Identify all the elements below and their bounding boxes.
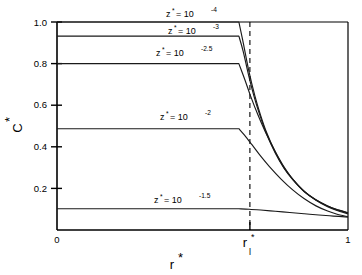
curve-series-1 <box>57 36 348 212</box>
y-axis-title: C * <box>2 117 25 133</box>
label-z-star-1: * <box>174 24 177 31</box>
x-axis-title-base: r <box>170 257 175 272</box>
y-tick-label-0-8: 0.8 <box>34 58 47 69</box>
label-z-base-0: z <box>166 9 171 19</box>
concentration-profile-chart: 0.2 0.4 0.6 0.8 1.0 0 1 r * l C * r <box>0 0 362 275</box>
label-z-equals-1: = 10 <box>178 26 196 36</box>
y-tick-label-0-6: 0.6 <box>34 99 47 110</box>
y-axis-title-sup: * <box>2 117 17 122</box>
figure-container: 0.2 0.4 0.6 0.8 1.0 0 1 r * l C * r <box>0 0 362 275</box>
label-z-base-3: z <box>160 112 165 122</box>
label-z-exponent-0: -4 <box>211 6 217 13</box>
y-axis-title-base: C <box>10 123 25 132</box>
label-z-star-4: * <box>160 193 163 200</box>
x-axis-title-sup: * <box>178 250 183 265</box>
y-tick-label-1-0: 1.0 <box>34 17 47 28</box>
x-tick-label-1: 1 <box>345 234 350 245</box>
x-axis-tick-labels: 0 1 r * l <box>54 232 350 257</box>
x-tick-label-0: 0 <box>54 234 59 245</box>
label-z-equals-4: = 10 <box>164 195 182 205</box>
x-tick-label-rl: r * l <box>243 232 255 257</box>
label-z-base-2: z <box>156 48 161 58</box>
label-z-equals-0: = 10 <box>176 9 194 19</box>
x-tick-label-rl-base: r <box>243 235 248 250</box>
y-tick-label-0-2: 0.2 <box>34 183 47 194</box>
y-axis-tick-labels: 0.2 0.4 0.6 0.8 1.0 <box>34 17 47 194</box>
label-z-equals-2: = 10 <box>166 48 184 58</box>
curve-series-4 <box>57 209 348 217</box>
label-z-star-2: * <box>162 46 165 53</box>
series-annotation-z-1e-4: z * = 10 -4 <box>166 6 217 19</box>
x-tick-label-rl-sup: * <box>251 232 255 242</box>
series-annotation-z-1e-3: z * = 10 -3 <box>168 23 219 36</box>
curve-series-3 <box>57 129 348 217</box>
x-axis-title: r * <box>170 250 183 272</box>
label-z-base-1: z <box>168 26 173 36</box>
label-z-exponent-2: -2.5 <box>201 45 213 52</box>
label-z-exponent-3: -2 <box>205 109 211 116</box>
series-annotation-z-1e-2-5: z * = 10 -2.5 <box>156 45 213 58</box>
label-z-exponent-1: -3 <box>213 23 219 30</box>
y-tick-label-0-4: 0.4 <box>34 141 47 152</box>
series-annotation-z-1e-1-5: z * = 10 -1.5 <box>154 192 211 205</box>
series-annotation-z-1e-2: z * = 10 -2 <box>160 109 211 122</box>
label-z-exponent-4: -1.5 <box>199 192 211 199</box>
label-z-star-0: * <box>172 7 175 14</box>
label-z-base-4: z <box>154 195 159 205</box>
x-tick-label-rl-sub: l <box>249 247 251 257</box>
label-z-equals-3: = 10 <box>170 112 188 122</box>
label-z-star-3: * <box>166 110 169 117</box>
